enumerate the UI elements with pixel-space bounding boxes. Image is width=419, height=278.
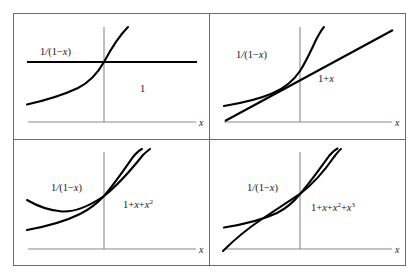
approximation-label: 1+x+x2 [123,198,153,210]
approximation-label: 1+x+x2+x3 [311,201,356,213]
function-label: 1/(1−x) [247,182,279,194]
function-label: 1/(1−x) [236,49,268,61]
function-label: 1/(1−x) [51,182,83,194]
figure-canvas: 1/(1−x) 1 x 1/(1−x) 1+x x 1/(1−x) [0,0,419,278]
function-label: 1/(1−x) [40,46,72,58]
approximation-label: 1+x [318,73,334,84]
x-axis-label: x [198,117,204,128]
x-axis-label: x [394,244,400,255]
x-axis-label: x [394,117,400,128]
x-axis-label: x [198,244,204,255]
approximation-label: 1 [140,83,145,94]
taylor-approximation-figure: 1/(1−x) 1 x 1/(1−x) 1+x x 1/(1−x) [0,0,419,278]
